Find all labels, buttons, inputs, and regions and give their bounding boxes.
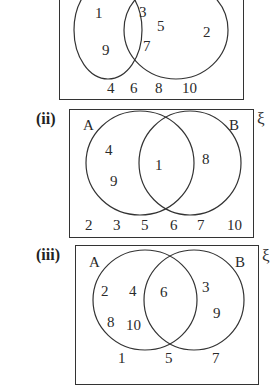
- only-a-element: 4: [129, 284, 137, 299]
- only-b-element: 9: [213, 306, 221, 321]
- only-a-element: 8: [107, 315, 115, 330]
- intersection-element: 6: [160, 285, 168, 300]
- outside-element: 1: [118, 351, 126, 366]
- only-a-element: 10: [126, 318, 141, 333]
- outside-element: 7: [212, 351, 220, 366]
- outside-element: 5: [165, 351, 173, 366]
- only-b-element: 3: [202, 280, 210, 295]
- set-b-label: B: [235, 255, 245, 270]
- set-a-label: A: [89, 255, 100, 270]
- only-a-element: 2: [101, 284, 109, 299]
